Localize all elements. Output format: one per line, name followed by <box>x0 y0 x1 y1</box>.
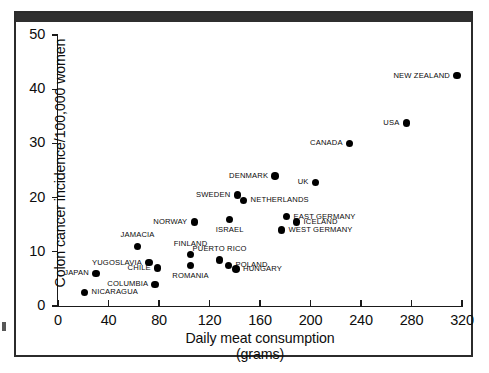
data-point-label: UK <box>298 178 309 186</box>
x-tick-mark <box>259 300 260 306</box>
x-tick-mark <box>158 300 159 306</box>
x-tick-label: 200 <box>289 312 333 328</box>
x-tick-label: 0 <box>36 312 80 328</box>
x-tick-label: 280 <box>390 312 434 328</box>
x-tick-mark <box>108 300 109 306</box>
data-point-label: NORWAY <box>153 218 187 226</box>
data-point-label: CANADA <box>310 139 343 147</box>
data-point-label: NEW ZEALAND <box>393 72 450 80</box>
y-tick-label: 40 <box>15 80 45 96</box>
data-point <box>92 270 100 278</box>
data-point <box>225 262 233 270</box>
y-tick-label: 30 <box>15 134 45 150</box>
chart-page: 01020304050 04080120160200240280320 Colo… <box>0 0 489 373</box>
data-point-label: CHILE <box>128 264 151 272</box>
data-point-label: JAMACIA <box>121 231 155 239</box>
x-tick-label: 120 <box>188 312 232 328</box>
y-tick-label: 20 <box>15 189 45 205</box>
data-point <box>226 216 234 224</box>
x-axis-title-units: (grams) <box>57 346 463 362</box>
data-point-label: USA <box>383 119 399 127</box>
data-point-label: JAPAN <box>64 269 89 277</box>
x-tick-label: 160 <box>238 312 282 328</box>
data-point <box>154 264 162 272</box>
scatter-plot: 01020304050 04080120160200240280320 Colo… <box>0 0 489 373</box>
data-point <box>216 256 224 264</box>
x-tick-label: 240 <box>339 312 383 328</box>
data-point <box>187 262 195 270</box>
data-point-label: HUNGARY <box>243 265 282 273</box>
data-point <box>453 72 461 80</box>
y-axis-title: Colon cancer incidence/100,000 women <box>52 23 68 303</box>
data-point <box>191 218 199 226</box>
data-point <box>271 172 279 180</box>
data-point <box>283 213 291 221</box>
y-tick-label: 50 <box>15 26 45 42</box>
x-tick-mark <box>461 300 462 306</box>
data-point <box>312 179 320 187</box>
data-point-label: DENMARK <box>229 172 268 180</box>
data-point-label: PUERTO RICO <box>193 245 247 253</box>
data-point <box>232 265 240 273</box>
data-point <box>278 226 286 234</box>
x-tick-label: 80 <box>137 312 181 328</box>
x-tick-label: 320 <box>440 312 484 328</box>
x-tick-label: 40 <box>87 312 131 328</box>
x-tick-mark <box>360 300 361 306</box>
y-tick-label: 0 <box>15 297 45 313</box>
x-axis-line <box>57 306 463 307</box>
data-point <box>81 289 89 297</box>
data-point-label: COLUMBIA <box>107 280 148 288</box>
x-axis-title: Daily meat consumption (grams) <box>57 330 463 362</box>
data-point-label: ROMANIA <box>172 272 209 280</box>
data-point <box>240 197 248 205</box>
data-point-label: SWEDEN <box>196 191 230 199</box>
data-point <box>403 119 411 127</box>
data-point-label: WEST GERMANY <box>288 226 352 234</box>
data-point <box>346 140 354 148</box>
y-tick-label: 10 <box>15 243 45 259</box>
data-point-label: NICARAGUA <box>92 288 139 296</box>
x-tick-mark <box>310 300 311 306</box>
data-point-label: ISRAEL <box>216 226 244 234</box>
data-point <box>151 281 159 289</box>
data-point-label: NETHERLANDS <box>251 196 309 204</box>
x-tick-mark <box>411 300 412 306</box>
data-point <box>134 243 142 251</box>
x-axis-title-main: Daily meat consumption <box>57 330 463 346</box>
x-tick-mark <box>209 300 210 306</box>
